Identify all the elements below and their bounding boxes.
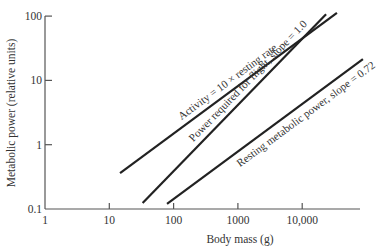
y-axis-label: Metabolic power (relative units) [5,39,18,188]
chart: 110100100010,0000.1110100 Activity = 10 … [0,0,381,249]
series-group [120,13,363,204]
y-tick-label: 100 [25,10,43,22]
x-tick-label: 10,000 [286,214,318,227]
x-tick-label: 100 [165,214,183,226]
x-axis-label: Body mass (g) [206,233,273,246]
annotations-group: Activity = 10 × resting ratePower requir… [176,17,378,169]
y-tick-label: 1 [36,139,42,151]
series-line-2 [143,14,326,203]
y-tick-label: 0.1 [28,203,43,215]
x-tick-label: 1000 [226,214,249,226]
y-tick-label: 10 [31,74,43,86]
x-tick-label: 1 [42,214,48,226]
x-tick-label: 10 [104,214,116,226]
